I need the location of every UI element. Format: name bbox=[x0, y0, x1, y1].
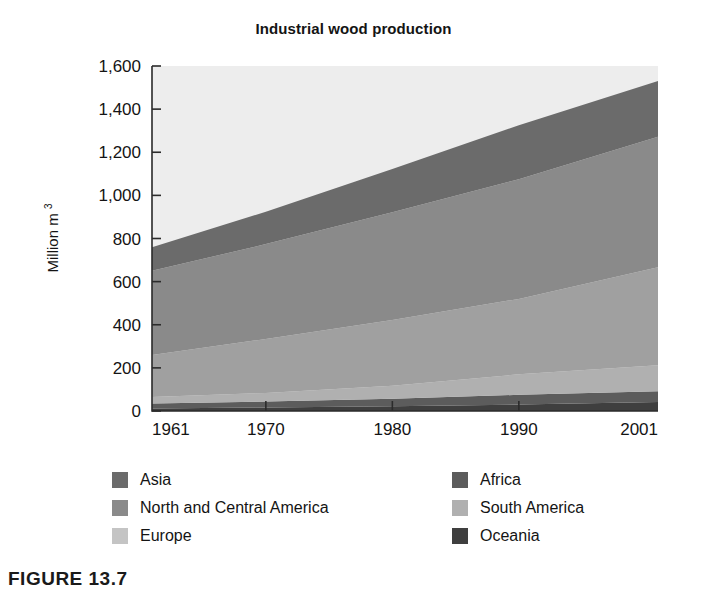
legend-label-africa: Africa bbox=[480, 472, 521, 488]
y-tick-label-1400: 1,400 bbox=[98, 100, 141, 119]
legend-label-south-america: South America bbox=[480, 500, 584, 516]
legend-item-south-america: South America bbox=[452, 494, 584, 522]
y-axis-title: Million m 3 bbox=[43, 203, 61, 272]
legend-swatch-north-and-central-america bbox=[112, 500, 128, 516]
legend-item-asia: Asia bbox=[112, 466, 329, 494]
y-tick-label-600: 600 bbox=[113, 273, 141, 292]
y-tick-label-1600: 1,600 bbox=[98, 57, 141, 76]
legend-item-north-and-central-america: North and Central America bbox=[112, 494, 329, 522]
legend-swatch-asia bbox=[112, 472, 128, 488]
y-tick-label-0: 0 bbox=[132, 402, 141, 421]
legend-swatch-oceania bbox=[452, 528, 468, 544]
x-tick-label-1970: 1970 bbox=[247, 420, 285, 439]
legend-label-north-and-central-america: North and Central America bbox=[140, 500, 329, 516]
legend-label-europe: Europe bbox=[140, 528, 192, 544]
legend-swatch-africa bbox=[452, 472, 468, 488]
legend-item-oceania: Oceania bbox=[452, 522, 584, 550]
figure-container: Industrial wood production 0200400600800… bbox=[0, 0, 707, 592]
y-tick-label-1200: 1,200 bbox=[98, 143, 141, 162]
y-tick-label-200: 200 bbox=[113, 359, 141, 378]
figure-caption: FIGURE 13.7 bbox=[8, 568, 128, 590]
legend-swatch-south-america bbox=[452, 500, 468, 516]
legend-label-asia: Asia bbox=[140, 472, 171, 488]
y-axis-title-text: Million m 3 bbox=[43, 203, 61, 272]
legend-item-africa: Africa bbox=[452, 466, 584, 494]
y-tick-label-400: 400 bbox=[113, 316, 141, 335]
legend-column-left: Asia North and Central America Europe bbox=[112, 466, 329, 550]
legend-label-oceania: Oceania bbox=[480, 528, 540, 544]
y-tick-label-1000: 1,000 bbox=[98, 186, 141, 205]
x-tick-label-1961: 1961 bbox=[152, 420, 190, 439]
x-tick-label-1980: 1980 bbox=[373, 420, 411, 439]
stacked-area-chart: 02004006008001,0001,2001,4001,6001961197… bbox=[0, 0, 707, 592]
legend-column-right: Africa South America Oceania bbox=[452, 466, 584, 550]
legend-item-europe: Europe bbox=[112, 522, 329, 550]
y-tick-label-800: 800 bbox=[113, 230, 141, 249]
legend-swatch-europe bbox=[112, 528, 128, 544]
x-tick-label-1990: 1990 bbox=[500, 420, 538, 439]
y-axis-title-superscript: 3 bbox=[43, 203, 54, 209]
x-tick-label-2001: 2001 bbox=[620, 420, 658, 439]
